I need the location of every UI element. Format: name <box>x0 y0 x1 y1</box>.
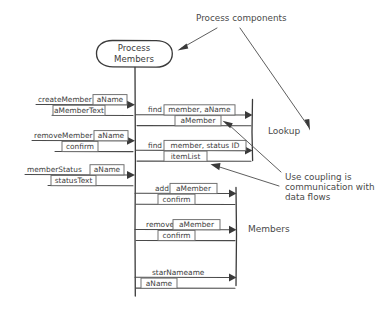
use-coupling-line3: data flows <box>285 192 331 202</box>
actor-label-line1: Process <box>118 43 151 53</box>
message-create-member[interactable]: createMember aName aMemberText <box>36 95 135 116</box>
process-components-arrow-right-line <box>240 28 308 126</box>
remove-call-reply: confirm <box>162 231 190 240</box>
add-param: aMember <box>176 184 212 193</box>
message-find-member-status-id[interactable]: find member, status ID itemList <box>136 140 253 161</box>
star-arrowhead <box>229 273 237 281</box>
remove-member-param: aName <box>98 131 125 140</box>
message-star-nameame[interactable]: starNameame aName <box>135 268 237 289</box>
message-add-member[interactable]: add aMember confirm <box>135 183 237 204</box>
message-remove-member[interactable]: removeMember aName confirm <box>32 131 135 152</box>
members-lifeline <box>236 188 237 286</box>
use-coupling-line2: communication with <box>285 182 375 192</box>
remove-member-reply: confirm <box>66 142 94 151</box>
remove-member-label: removeMember <box>34 131 93 140</box>
find-status-reply: itemList <box>171 152 201 161</box>
actor-process-members[interactable]: Process Members <box>97 41 173 68</box>
member-status-arrowhead <box>127 171 135 179</box>
star-label: starNameame <box>152 268 205 277</box>
find-status-label: find <box>148 141 162 150</box>
remove-call-arrowhead <box>229 226 237 234</box>
process-components-text: Process components <box>196 13 287 23</box>
message-remove-member-call[interactable]: remove aMember confirm <box>135 220 237 241</box>
find-aname-arrowhead <box>245 111 253 119</box>
add-arrowhead <box>229 190 237 198</box>
find-aname-reply: aMember <box>181 116 217 125</box>
group-label-members: Members <box>248 224 290 234</box>
create-member-arrowhead <box>127 101 135 109</box>
process-components-arrow-left-head <box>178 44 189 51</box>
create-member-reply: aMemberText <box>54 106 104 115</box>
lookup-lifeline <box>252 100 253 161</box>
use-coupling-arrow-itemlist-line <box>218 167 279 187</box>
message-member-status[interactable]: memberStatus aName statusText <box>25 165 135 186</box>
create-member-param: aName <box>97 95 124 104</box>
diagram-canvas: Process Members createMember aName aMemb… <box>0 0 388 310</box>
create-member-label: createMember <box>38 95 93 104</box>
use-coupling-line1: Use coupling is <box>285 172 352 182</box>
add-reply: confirm <box>162 195 190 204</box>
sequence-diagram: Process Members createMember aName aMemb… <box>0 0 388 310</box>
group-label-lookup: Lookup <box>268 126 301 136</box>
find-status-param: member, status ID <box>171 141 240 150</box>
remove-call-param: aMember <box>179 220 215 229</box>
member-status-reply: statusText <box>55 176 93 185</box>
remove-call-label: remove <box>146 220 175 229</box>
message-find-member-aname[interactable]: find member, aName aMember <box>136 105 253 126</box>
star-reply: aName <box>146 279 173 288</box>
add-label: add <box>155 184 169 193</box>
actor-label-line2: Members <box>114 54 154 64</box>
find-aname-param: member, aName <box>168 105 231 114</box>
use-coupling-arrow-itemlist-head <box>211 163 221 170</box>
member-status-label: memberStatus <box>27 165 82 174</box>
find-aname-label: find <box>148 105 162 114</box>
member-status-param: aName <box>94 165 121 174</box>
process-components-arrow-right-head <box>304 119 310 131</box>
